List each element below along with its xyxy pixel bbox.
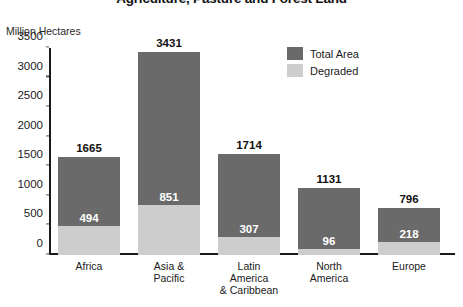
x-axis-category-label: Europe: [361, 260, 457, 272]
y-axis-tick-mark: [46, 165, 49, 166]
bar-value-label-total: 1665: [58, 142, 120, 154]
bar-value-label-total: 1131: [298, 173, 360, 185]
bar-value-label-total: 1714: [218, 139, 280, 151]
chart-container: Agriculture, Pasture and Forest Land Mil…: [0, 0, 463, 307]
y-axis-tick-mark: [46, 253, 49, 254]
y-axis-tick-label: 0: [3, 237, 43, 249]
y-axis-line: [49, 48, 51, 255]
bar-group[interactable]: 796218: [378, 208, 440, 255]
bar-group[interactable]: 3431851: [138, 52, 200, 255]
y-axis-tick-mark: [46, 194, 49, 195]
bar-stack: [218, 154, 280, 255]
y-axis-tick-mark: [46, 76, 49, 77]
bar-segment-degraded[interactable]: [298, 249, 360, 255]
bar-value-label-degraded: 218: [378, 228, 440, 240]
y-axis-tick-mark: [46, 224, 49, 225]
bar-segment-degraded[interactable]: [378, 242, 440, 255]
bar-group[interactable]: 1714307: [218, 154, 280, 255]
category-label-line: America: [281, 272, 377, 284]
bar-segment-degraded[interactable]: [218, 237, 280, 255]
category-label-line: & Caribbean: [201, 284, 297, 296]
legend-swatch-degraded-icon: [287, 64, 303, 77]
y-axis-tick-label: 1500: [3, 148, 43, 160]
bar-value-label-degraded: 494: [58, 212, 120, 224]
bar-value-label-degraded: 851: [138, 191, 200, 203]
plot-area: 0500100015002000250030003500 16654943431…: [49, 48, 455, 255]
bar-stack: [138, 52, 200, 255]
y-axis-tick-label: 3000: [3, 60, 43, 72]
bar-segment-degraded[interactable]: [58, 226, 120, 255]
category-label-line: Europe: [361, 260, 457, 272]
legend-label-total-area: Total Area: [310, 48, 359, 60]
bar-value-label-degraded: 96: [298, 235, 360, 247]
legend-label-degraded: Degraded: [310, 65, 358, 77]
y-axis-tick-label: 1000: [3, 178, 43, 190]
bar-value-label-total: 3431: [138, 37, 200, 49]
chart-legend: Total Area Degraded: [287, 47, 359, 77]
chart-title: Agriculture, Pasture and Forest Land: [0, 0, 463, 6]
bar-group[interactable]: 1665494: [58, 157, 120, 255]
bar-value-label-total: 796: [378, 193, 440, 205]
y-axis-tick-label: 2000: [3, 119, 43, 131]
bar-segment-degraded[interactable]: [138, 205, 200, 255]
y-axis-tick-mark: [46, 105, 49, 106]
y-axis-tick-label: 2500: [3, 89, 43, 101]
legend-item-degraded: Degraded: [287, 64, 359, 77]
bar-group[interactable]: 113196: [298, 188, 360, 255]
y-axis-tick-label: 500: [3, 207, 43, 219]
legend-item-total-area: Total Area: [287, 47, 359, 60]
legend-swatch-total-area-icon: [287, 47, 303, 60]
y-axis-tick-mark: [46, 46, 49, 47]
y-axis-tick-label: 3500: [3, 30, 43, 42]
y-axis-tick-mark: [46, 135, 49, 136]
bar-value-label-degraded: 307: [218, 223, 280, 235]
bar-stack: [58, 157, 120, 255]
bar-segment-total-area[interactable]: [138, 52, 200, 205]
